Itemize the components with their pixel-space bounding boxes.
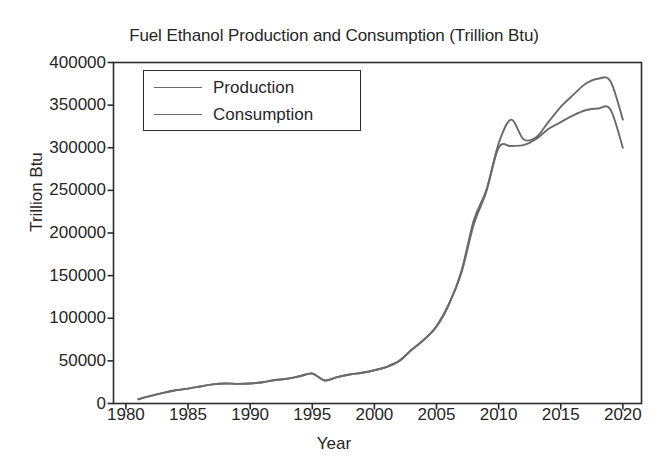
y-tick-label: 250000 — [14, 180, 106, 200]
chart-figure: Fuel Ethanol Production and Consumption … — [0, 0, 668, 473]
legend-swatch-icon — [154, 87, 202, 88]
y-tick-label: 400000 — [14, 53, 106, 73]
y-tick-label: 350000 — [14, 95, 106, 115]
legend-entry-production: Production — [154, 74, 294, 101]
x-tick-label: 2020 — [588, 405, 658, 425]
y-tick-label: 100000 — [14, 308, 106, 328]
y-tick-label: 50000 — [14, 351, 106, 371]
y-axis-tick-labels: 0500001000001500002000002500003000003500… — [6, 0, 106, 473]
x-tick-label: 1995 — [277, 405, 347, 425]
legend-label: Consumption — [213, 105, 313, 125]
x-tick-label: 2005 — [402, 405, 472, 425]
x-tick-label: 2000 — [339, 405, 409, 425]
x-tick-label: 1980 — [91, 405, 161, 425]
legend-label: Production — [213, 78, 294, 98]
x-tick-label: 2010 — [464, 405, 534, 425]
y-tick-label: 200000 — [14, 223, 106, 243]
chart-legend: Production Consumption — [143, 70, 361, 131]
legend-swatch-icon — [154, 114, 202, 115]
legend-entry-consumption: Consumption — [154, 101, 313, 128]
y-tick-label: 150000 — [14, 266, 106, 286]
x-tick-label: 1990 — [215, 405, 285, 425]
series-line-consumption — [138, 106, 623, 399]
y-axis-ticks — [108, 63, 114, 404]
y-tick-label: 300000 — [14, 138, 106, 158]
x-tick-label: 1985 — [153, 405, 223, 425]
x-tick-label: 2015 — [526, 405, 596, 425]
